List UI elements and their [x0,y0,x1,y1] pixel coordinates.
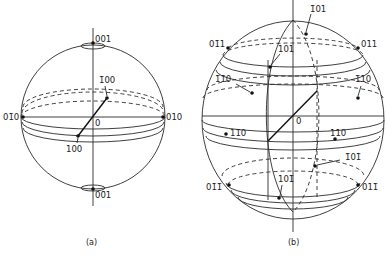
caption-b: (b) [288,238,299,247]
label-b--101: 1̄01 [310,4,326,14]
label-b-011: 011 [361,39,377,49]
label-b--110: 1̄10 [355,74,371,84]
label-a-00-1: 00̄1 [95,190,111,200]
diagram-canvas: 001 00̄1 01̄0 010 1̄00 100 0 (a) [0,0,387,255]
label-b-0-11: 01̄1 [209,39,225,49]
label-b-0-1-1: 01̄1̄ [206,182,222,192]
caption-a: (a) [86,238,97,247]
label-b-origin: 0 [296,116,301,126]
sphere-a [21,28,165,206]
label-a-001: 001 [95,34,111,44]
label-a--100: 1̄00 [99,75,115,85]
label-b-110: 110 [330,128,346,138]
label-b--1-10: 1̄1̄0 [215,74,231,84]
label-b-101: 101 [278,44,294,54]
label-a-0-10: 01̄0 [3,112,19,122]
label-b-01-1: 011̄ [362,182,378,192]
label-b-10-1: 101̄ [278,174,294,184]
label-b--10-1: 1̄01̄ [345,152,361,162]
label-a-010: 010 [166,112,182,122]
label-a-100: 100 [66,144,82,154]
label-a-origin: 0 [95,118,100,128]
label-b-1-10: 11̄0 [230,128,246,138]
sphere-b [202,0,384,232]
